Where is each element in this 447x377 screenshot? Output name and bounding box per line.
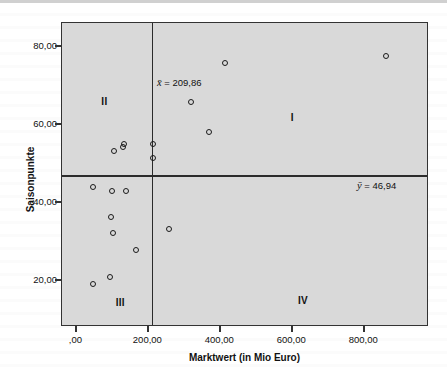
quadrant-II-label: II	[101, 95, 107, 106]
x-mean-reference-line	[152, 23, 154, 325]
x-tick-mark	[363, 326, 365, 332]
y-tick-label: 60,00	[33, 118, 57, 129]
y-tick-label: 80,00	[33, 40, 57, 51]
y-mean-value: = 46,94	[362, 180, 397, 191]
data-point	[206, 129, 212, 135]
y-tick-label: 20,00	[33, 274, 57, 285]
data-point	[120, 144, 126, 150]
data-point	[222, 60, 228, 66]
data-point	[90, 184, 96, 190]
data-point	[111, 148, 117, 154]
x-tick-label: 800,00	[349, 334, 378, 345]
scatter-plot-figure: Saisonpunkte 20,0040,0060,0080,00 x̄ = 2…	[0, 0, 447, 377]
data-point	[150, 141, 156, 147]
page-top-rule	[0, 0, 447, 3]
data-point	[90, 281, 96, 287]
x-tick-label: 400,00	[205, 334, 234, 345]
x-tick-mark	[75, 326, 77, 332]
data-point	[108, 214, 114, 220]
y-mean-annotation: ȳ = 46,94	[357, 180, 396, 191]
y-mean-reference-line	[62, 175, 427, 177]
x-tick-label: 600,00	[277, 334, 306, 345]
data-point	[150, 155, 156, 161]
data-point	[123, 188, 129, 194]
data-point	[166, 226, 172, 232]
quadrant-III-label: III	[116, 296, 125, 307]
x-mean-annotation: x̄ = 209,86	[157, 77, 202, 88]
x-tick-label: ,00	[69, 334, 82, 345]
data-point	[188, 99, 194, 105]
quadrant-IV-label: IV	[298, 295, 308, 306]
x-tick-label: 200,00	[133, 334, 162, 345]
plot-area: x̄ = 209,86ȳ = 46,94IIIIIIIV	[61, 22, 428, 326]
data-point	[133, 247, 139, 253]
x-tick-mark	[147, 326, 149, 332]
data-point	[107, 274, 113, 280]
data-point	[110, 230, 116, 236]
x-tick-mark	[291, 326, 293, 332]
data-point	[109, 188, 115, 194]
x-axis-title: Marktwert (in Mio Euro)	[61, 352, 428, 363]
plot-inner: x̄ = 209,86ȳ = 46,94IIIIIIIV	[62, 23, 427, 325]
data-point	[383, 53, 389, 59]
x-mean-value: = 209,86	[162, 77, 202, 88]
quadrant-I-label: I	[291, 111, 294, 122]
y-axis-tick-labels: 20,0040,0060,0080,00	[0, 22, 57, 326]
y-tick-label: 40,00	[33, 196, 57, 207]
x-tick-mark	[219, 326, 221, 332]
